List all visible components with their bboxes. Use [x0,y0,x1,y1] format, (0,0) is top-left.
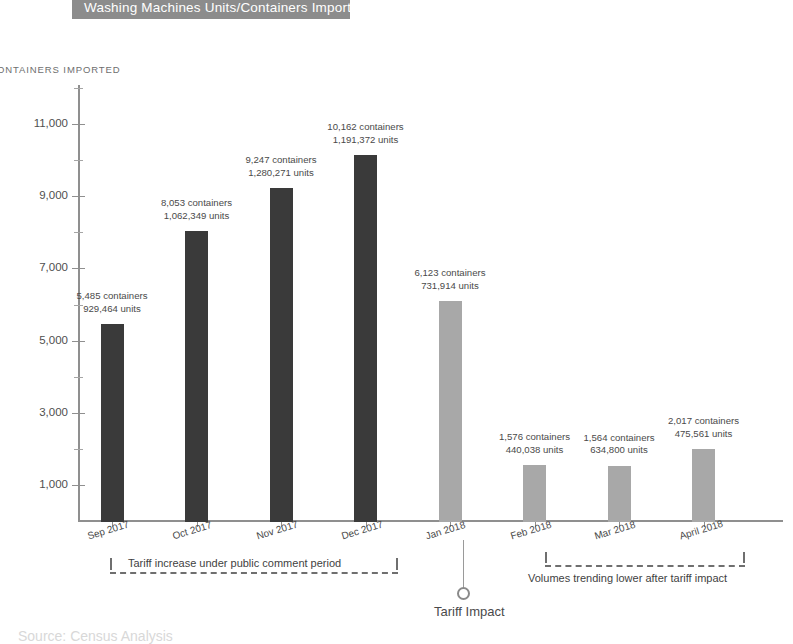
y-tick-label: 5,000 [12,334,68,346]
bar-label-jan-2018: 6,123 containers731,914 units [390,267,510,292]
y-tick-label: 11,000 [12,117,68,129]
bar-mar-2018[interactable] [608,466,631,522]
y-tick-mark [72,341,85,342]
bar-label-units: 1,062,349 units [137,210,257,223]
bar-label-sep-2017: 5,485 containers929,464 units [52,290,172,315]
bar-label-containers: 8,053 containers [161,197,232,208]
right-annotation-bracket [545,552,745,574]
tariff-impact-label: Tariff Impact [434,604,505,619]
tariff-impact-leader-line [463,540,464,588]
y-tick-mark [72,196,85,197]
y-tick-mark [72,485,85,486]
x-label-jan-2018: Jan 2018 [424,519,467,542]
bar-label-units: 929,464 units [52,303,172,316]
x-label-feb-2018: Feb 2018 [509,519,553,542]
y-tick-minor-mark [74,160,83,161]
y-tick-label: 1,000 [12,478,68,490]
bar-label-dec-2017: 10,162 containers1,191,372 units [306,121,426,146]
bar-label-containers: 5,485 containers [77,290,148,301]
bar-dec-2017[interactable] [354,155,377,522]
x-axis-line [78,520,783,522]
bar-oct-2017[interactable] [185,231,208,522]
y-tick-mark [72,124,85,125]
y-tick-minor-mark [74,232,83,233]
bar-label-units: 1,191,372 units [306,134,426,147]
bar-feb-2018[interactable] [523,465,546,522]
bracket-tip-left [110,558,112,570]
y-tick-minor-mark [74,449,83,450]
bar-label-containers: 2,017 containers [668,415,739,426]
y-tick-label: 9,000 [12,189,68,201]
y-tick-minor-mark [74,88,83,89]
source-note: Source: Census Analysis [18,628,173,644]
bracket-tip-right [396,558,398,570]
bracket-tip-right [743,552,745,563]
y-tick-label: 3,000 [12,406,68,418]
y-tick-label: 7,000 [12,261,68,273]
bar-label-units: 634,800 units [559,444,679,457]
x-label-mar-2018: Mar 2018 [593,519,637,542]
bracket-dashed-line [545,565,745,567]
bar-label-units: 475,561 units [644,428,764,441]
bar-label-containers: 9,247 containers [246,154,317,165]
y-tick-mark [72,268,85,269]
bracket-dashed-line [110,572,398,574]
bracket-tip-left [545,552,547,563]
bar-jan-2018[interactable] [439,301,462,522]
bar-nov-2017[interactable] [270,188,293,522]
bar-label-containers: 6,123 containers [415,267,486,278]
y-tick-mark [72,413,85,414]
left-annotation-text: Tariff increase under public comment per… [128,557,341,569]
bar-april-2018[interactable] [692,449,715,522]
y-tick-minor-mark [74,377,83,378]
right-annotation-text: Volumes trending lower after tariff impa… [528,572,727,584]
bar-label-nov-2017: 9,247 containers1,280,271 units [221,154,341,179]
bar-sep-2017[interactable] [101,324,124,522]
tariff-impact-marker-icon [457,587,470,600]
bar-label-units: 1,280,271 units [221,167,341,180]
bar-label-oct-2017: 8,053 containers1,062,349 units [137,197,257,222]
bar-label-april-2018: 2,017 containers475,561 units [644,415,764,440]
x-label-oct-2017: Oct 2017 [171,519,213,541]
bar-label-units: 731,914 units [390,280,510,293]
bar-label-containers: 10,162 containers [327,121,403,132]
